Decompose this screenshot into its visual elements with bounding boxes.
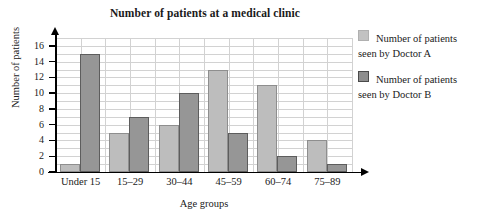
y-axis-tick — [49, 171, 56, 172]
y-axis-tick-label: 4 — [10, 135, 44, 145]
y-axis-tick-label: 10 — [10, 88, 44, 98]
legend-label: Number of patientsseen by Doctor B — [358, 74, 482, 102]
y-axis-tick — [49, 156, 56, 157]
y-axis-tick — [49, 77, 56, 78]
legend-label: Number of patientsseen by Doctor A — [358, 33, 482, 61]
x-axis-category-label: 75–89 — [297, 176, 357, 188]
chart-legend: Number of patientsseen by Doctor ANumber… — [358, 28, 482, 110]
y-axis-tick-label: 14 — [10, 57, 44, 67]
legend-label-line2: seen by Doctor B — [358, 88, 482, 103]
y-axis-tick — [49, 108, 56, 109]
legend-label-line1: Number of patients — [376, 33, 457, 44]
legend-label-line2: seen by Doctor A — [358, 47, 482, 62]
y-axis-tick-label: 0 — [10, 167, 44, 177]
y-axis-tick-label: 6 — [10, 120, 44, 130]
y-axis-tick — [49, 45, 56, 46]
y-axis-tick — [49, 92, 56, 93]
y-axis-tick — [49, 61, 56, 62]
legend-swatch-icon — [358, 30, 369, 41]
legend-label-line1: Number of patients — [376, 74, 457, 85]
y-axis-tick — [49, 140, 56, 141]
y-axis-tick-label: 12 — [10, 72, 44, 82]
legend-swatch-icon — [358, 71, 369, 82]
bar-chart-figure: Number of patients at a medical clinic N… — [0, 0, 482, 224]
legend-item: Number of patientsseen by Doctor B — [358, 69, 482, 102]
y-axis-tick-label: 8 — [10, 104, 44, 114]
legend-item: Number of patientsseen by Doctor A — [358, 28, 482, 61]
y-axis-tick-label: 2 — [10, 151, 44, 161]
y-axis-tick-label: 16 — [10, 41, 44, 51]
y-axis-tick — [49, 124, 56, 125]
